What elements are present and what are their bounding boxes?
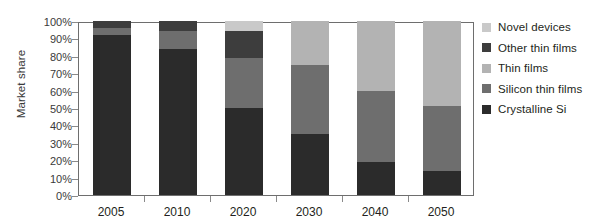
bar-segment: [225, 21, 263, 31]
bar-segment: [159, 31, 197, 48]
x-axis-tick-label-2010: 2010: [147, 205, 207, 219]
bar-2050: [423, 21, 461, 195]
legend-item: Thin films: [482, 58, 596, 79]
bar-2020: [225, 21, 263, 195]
bar-2010: [159, 21, 197, 195]
bar-segment: [357, 91, 395, 162]
legend-item-label: Silicon thin films: [498, 83, 582, 95]
bar-2040: [357, 21, 395, 195]
x-axis-tick-label-2030: 2030: [279, 205, 339, 219]
x-axis-tick-label-2005: 2005: [81, 205, 141, 219]
legend-swatch-icon: [482, 84, 491, 93]
legend-item: Novel devices: [482, 17, 596, 38]
y-axis-tick-label: 80%: [26, 51, 72, 63]
x-axis-tick-label-2050: 2050: [411, 205, 471, 219]
bar-segment: [423, 106, 461, 170]
x-axis-tick-mark: [408, 196, 409, 202]
x-axis-tick-mark: [276, 196, 277, 202]
y-axis-tick-label: 30%: [26, 138, 72, 150]
x-axis-tick-mark: [210, 196, 211, 202]
chart-legend: Novel devicesOther thin filmsThin filmsS…: [482, 17, 596, 120]
y-axis-tick-label: 60%: [26, 86, 72, 98]
x-axis-tick-mark: [342, 196, 343, 202]
x-axis-tick-label-2040: 2040: [345, 205, 405, 219]
legend-item: Other thin films: [482, 38, 596, 59]
legend-item-label: Thin films: [498, 62, 548, 74]
x-axis-tick-mark: [144, 196, 145, 202]
bar-segment: [159, 49, 197, 195]
plot-area: [78, 22, 474, 196]
x-axis-tick-label-2020: 2020: [213, 205, 273, 219]
legend-item-label: Crystalline Si: [498, 103, 567, 115]
y-axis-tick-label: 100%: [26, 16, 72, 28]
legend-item: Silicon thin films: [482, 79, 596, 100]
bar-segment: [93, 35, 131, 195]
bar-segment: [423, 21, 461, 106]
legend-swatch-icon: [482, 105, 491, 114]
y-axis-tick-label: 50%: [26, 103, 72, 115]
y-axis-tick-label: 0%: [26, 190, 72, 202]
bar-segment: [423, 171, 461, 195]
bar-segment: [291, 21, 329, 65]
y-axis-tick-mark: [72, 196, 78, 197]
bar-segment: [225, 58, 263, 108]
market-share-stacked-bar-chart: Market share 100%90%80%70%60%50%40%30%20…: [0, 0, 596, 224]
bar-segment: [225, 31, 263, 57]
legend-item-label: Novel devices: [498, 21, 571, 33]
legend-item-label: Other thin films: [498, 42, 577, 54]
legend-swatch-icon: [482, 64, 491, 73]
bar-segment: [291, 65, 329, 135]
bar-segment: [357, 21, 395, 91]
bar-segment: [357, 162, 395, 195]
y-axis-tick-label: 40%: [26, 120, 72, 132]
bar-segment: [93, 21, 131, 28]
bar-segment: [291, 134, 329, 195]
legend-swatch-icon: [482, 43, 491, 52]
y-axis-tick-label: 90%: [26, 33, 72, 45]
legend-swatch-icon: [482, 23, 491, 32]
y-axis-tick-label: 10%: [26, 173, 72, 185]
bar-2005: [93, 21, 131, 195]
bar-2030: [291, 21, 329, 195]
bar-segment: [225, 108, 263, 195]
legend-item: Crystalline Si: [482, 99, 596, 120]
bar-segment: [159, 21, 197, 31]
y-axis-tick-label: 70%: [26, 68, 72, 80]
y-axis-tick-label: 20%: [26, 155, 72, 167]
bar-segment: [93, 28, 131, 35]
